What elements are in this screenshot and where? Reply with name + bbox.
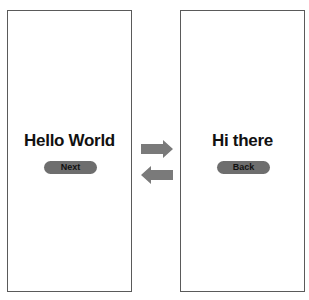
screen-title: Hi there (181, 131, 304, 151)
screen-hi-there: Hi there Back (180, 10, 305, 292)
arrow-right-icon (141, 140, 173, 158)
back-button[interactable]: Back (217, 161, 270, 174)
screen-title: Hello World (8, 131, 131, 151)
arrow-left-icon (141, 166, 173, 184)
screen-hello-world: Hello World Next (7, 10, 132, 292)
next-button[interactable]: Next (44, 161, 97, 174)
